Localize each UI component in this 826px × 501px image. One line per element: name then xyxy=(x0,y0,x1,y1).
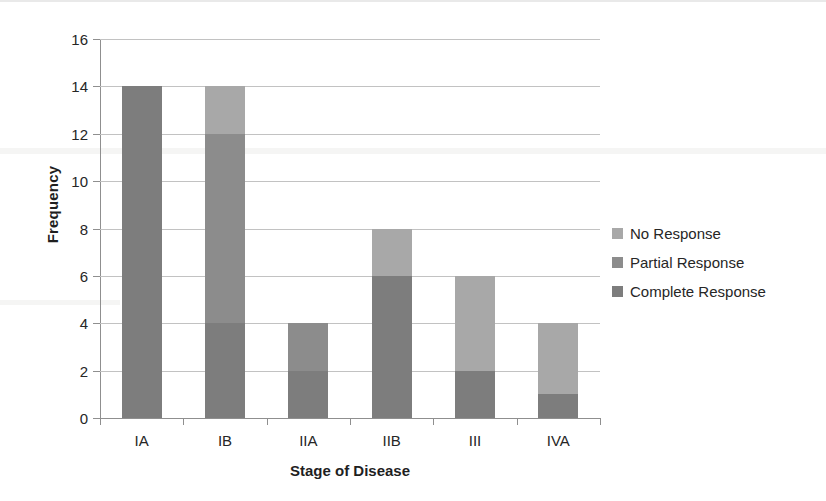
x-axis-tick-mark xyxy=(350,418,351,425)
legend-item[interactable]: No Response xyxy=(612,219,766,248)
gridline xyxy=(100,276,600,277)
y-axis-tick-mark xyxy=(93,39,100,40)
x-axis-title: Stage of Disease xyxy=(100,462,600,479)
x-axis-tick-label: IIB xyxy=(382,432,400,449)
plot-area xyxy=(100,39,600,418)
bar-stack[interactable] xyxy=(205,86,245,418)
bar-segment[interactable] xyxy=(205,323,245,418)
y-axis-tick-label: 2 xyxy=(40,362,88,379)
y-axis-tick-mark xyxy=(93,323,100,324)
x-axis-tick-mark xyxy=(267,418,268,425)
x-axis-tick-mark xyxy=(100,418,101,425)
y-axis-tick-mark xyxy=(93,418,100,419)
legend-label: Partial Response xyxy=(630,254,744,271)
chart-legend: No ResponsePartial ResponseComplete Resp… xyxy=(612,219,766,306)
x-axis-tick-mark xyxy=(600,418,601,425)
bar-segment[interactable] xyxy=(288,323,328,370)
legend-swatch-icon xyxy=(612,257,623,268)
gridline xyxy=(100,39,600,40)
x-axis-tick-label: III xyxy=(469,432,482,449)
legend-swatch-icon xyxy=(612,228,623,239)
legend-item[interactable]: Complete Response xyxy=(612,277,766,306)
x-axis-tick-label: IIA xyxy=(299,432,317,449)
y-axis-tick-labels: 0246810121416 xyxy=(40,39,88,418)
bar-segment[interactable] xyxy=(372,229,412,276)
bar-stack[interactable] xyxy=(538,323,578,418)
y-axis-tick-label: 0 xyxy=(40,410,88,427)
bar-segment[interactable] xyxy=(122,86,162,418)
gridline xyxy=(100,86,600,87)
legend-item[interactable]: Partial Response xyxy=(612,248,766,277)
y-axis-tick-mark xyxy=(93,134,100,135)
y-axis-tick-label: 16 xyxy=(40,31,88,48)
y-axis-tick-mark xyxy=(93,86,100,87)
legend-label: Complete Response xyxy=(630,283,766,300)
x-axis-tick-label: IB xyxy=(218,432,232,449)
y-axis-tick-label: 8 xyxy=(40,220,88,237)
y-axis-tick-label: 10 xyxy=(40,173,88,190)
y-axis-tick-mark xyxy=(93,229,100,230)
bar-segment[interactable] xyxy=(538,323,578,394)
bar-segment[interactable] xyxy=(288,371,328,418)
y-axis-tick-label: 6 xyxy=(40,267,88,284)
gridline xyxy=(100,323,600,324)
stacked-bar-chart: Frequency 0246810121416 Stage of Disease… xyxy=(0,0,826,501)
y-axis-tick-mark xyxy=(93,181,100,182)
y-axis-tick-label: 14 xyxy=(40,78,88,95)
bar-stack[interactable] xyxy=(288,323,328,418)
y-axis-tick-mark xyxy=(93,276,100,277)
legend-swatch-icon xyxy=(612,286,623,297)
bar-stack[interactable] xyxy=(122,86,162,418)
x-axis-tick-label: IA xyxy=(135,432,149,449)
gridline xyxy=(100,371,600,372)
x-axis-tick-mark xyxy=(183,418,184,425)
bar-segment[interactable] xyxy=(372,276,412,418)
bar-segment[interactable] xyxy=(455,371,495,418)
bar-stack[interactable] xyxy=(455,276,495,418)
y-axis-tick-mark xyxy=(93,371,100,372)
y-axis-tick-label: 12 xyxy=(40,125,88,142)
bar-stack[interactable] xyxy=(372,229,412,419)
bar-segment[interactable] xyxy=(205,134,245,324)
bar-segment[interactable] xyxy=(538,394,578,418)
x-axis-tick-mark xyxy=(517,418,518,425)
gridline xyxy=(100,181,600,182)
x-axis-tick-mark xyxy=(433,418,434,425)
bar-segment[interactable] xyxy=(205,86,245,133)
bar-segment[interactable] xyxy=(455,276,495,371)
legend-label: No Response xyxy=(630,225,721,242)
x-axis-tick-label: IVA xyxy=(547,432,570,449)
y-axis-tick-label: 4 xyxy=(40,315,88,332)
gridline xyxy=(100,229,600,230)
gridline xyxy=(100,134,600,135)
